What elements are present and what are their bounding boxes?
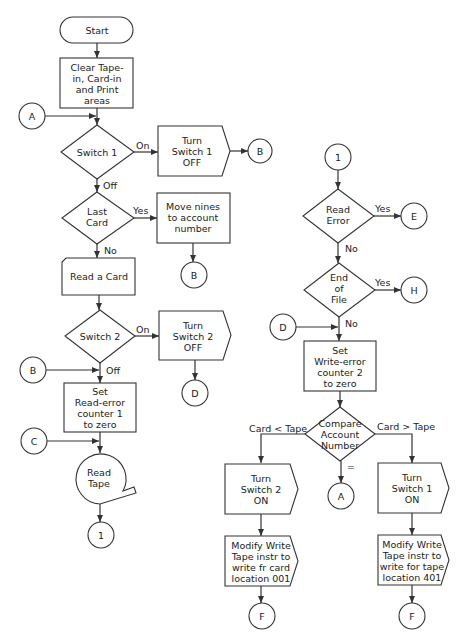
connector-f-left: F — [249, 603, 275, 629]
read-error-no-label: No — [345, 243, 358, 254]
set-read-err-line-2: Read-error — [75, 397, 125, 408]
modify-card-line-2: Tape instr to — [231, 551, 291, 562]
read-error-yes-label: Yes — [374, 203, 390, 214]
read-card-label: Read a Card — [70, 271, 128, 282]
move-nines-line-1: Move nines — [166, 201, 220, 212]
turn-sw1-off-line-1: Turn — [181, 135, 202, 146]
read-tape-io: Read Tape — [76, 454, 136, 504]
modify-card-line-1: Modify Write — [231, 540, 291, 551]
connector-f2-label: F — [409, 611, 414, 622]
connector-h-label: H — [410, 285, 417, 296]
last-card-line-2: Card — [86, 217, 108, 228]
last-card-line-1: Last — [87, 206, 107, 217]
set-read-err-line-1: Set — [92, 386, 108, 397]
read-tape-line-2: Tape — [87, 478, 110, 489]
edge-compare-gt — [375, 434, 412, 463]
turn-sw2-on-line-1: Turn — [250, 473, 271, 484]
read-error-line-1: Read — [326, 204, 350, 215]
set-write-err-line-3: counter 2 — [317, 367, 363, 378]
set-write-err-line-4: to zero — [324, 378, 357, 389]
switch1-decision: Switch 1 — [61, 125, 134, 179]
set-write-err-line-2: Write-error — [314, 356, 366, 367]
connector-d1-label: D — [191, 388, 198, 399]
read-error-decision: Read Error — [303, 189, 374, 243]
read-error-line-2: Error — [326, 215, 349, 226]
set-write-error-process: Set Write-error counter 2 to zero — [304, 341, 376, 391]
connector-f-right: F — [399, 603, 425, 629]
connector-1-in: 1 — [325, 144, 351, 170]
eof-line-1: End — [330, 272, 348, 283]
set-read-error-process: Set Read-error counter 1 to zero — [64, 383, 136, 432]
connector-c-in: C — [21, 428, 47, 454]
compare-line-2: Account — [321, 429, 360, 440]
eof-yes-label: Yes — [374, 277, 390, 288]
modify-tape-line-4: location 401 — [383, 572, 442, 583]
switch1-off-label: Off — [103, 180, 117, 191]
modify-tape-line-3: write for tape — [380, 561, 445, 572]
move-nines-process: Move nines to account number — [157, 193, 230, 243]
modify-card-line-4: location 001 — [232, 573, 291, 584]
connector-f1-label: F — [259, 611, 264, 622]
connector-a-label: A — [29, 111, 36, 122]
connector-b-out-1: B — [248, 139, 272, 163]
clear-line-1: Clear Tape- — [70, 62, 123, 73]
turn-sw1-on-line-3: ON — [405, 494, 420, 505]
move-nines-line-3: number — [174, 223, 211, 234]
connector-b2-label: B — [191, 270, 198, 281]
connector-b1-label: B — [257, 146, 264, 157]
modify-write-card-process: Modify Write Tape instr to write fr card… — [225, 536, 298, 586]
modify-write-tape-process: Modify Write Tape instr to write for tap… — [378, 535, 449, 585]
connector-d-in: D — [270, 314, 296, 340]
clear-line-4: areas — [84, 95, 110, 106]
connector-a-out-label: A — [338, 491, 345, 502]
turn-sw1-on-line-2: Switch 1 — [392, 483, 432, 494]
compare-line-3: Number — [321, 440, 359, 451]
clear-line-3: and Print — [76, 84, 119, 95]
connector-a-out: A — [328, 483, 354, 509]
move-nines-line-2: to account — [168, 212, 219, 223]
turn-sw2-off-line-3: OFF — [184, 342, 202, 353]
switch2-on-label: On — [136, 324, 150, 335]
flowchart: Start Clear Tape- in, Card-in and Print … — [0, 0, 465, 643]
switch2-label: Switch 2 — [80, 331, 120, 342]
turn-switch2-off-process: Turn Switch 2 OFF — [159, 311, 231, 360]
last-card-decision: Last Card — [62, 192, 134, 244]
turn-sw1-off-line-3: OFF — [183, 157, 201, 168]
turn-sw2-off-line-2: Switch 2 — [173, 331, 213, 342]
turn-switch2-on-process: Turn Switch 2 ON — [225, 464, 298, 514]
connector-e-label: E — [411, 211, 417, 222]
set-read-err-line-4: to zero — [84, 419, 117, 430]
connector-b-in-label: B — [30, 365, 37, 376]
turn-sw1-on-line-1: Turn — [401, 472, 422, 483]
switch1-on-label: On — [136, 140, 150, 151]
switch2-decision: Switch 2 — [65, 310, 135, 363]
last-card-no-label: No — [104, 245, 117, 256]
modify-tape-line-1: Modify Write — [382, 539, 442, 550]
switch2-off-label: Off — [106, 365, 120, 376]
compare-account-decision: Compare Account Number — [305, 407, 375, 461]
eof-line-3: File — [331, 294, 347, 305]
last-card-yes-label: Yes — [132, 205, 148, 216]
connector-b-out-2: B — [181, 262, 207, 288]
turn-sw1-off-line-2: Switch 1 — [172, 146, 212, 157]
turn-switch1-off-process: Turn Switch 1 OFF — [158, 126, 230, 176]
read-tape-line-1: Read — [87, 467, 111, 478]
connector-b-in: B — [20, 357, 46, 383]
start-label: Start — [85, 25, 108, 36]
compare-gt-label: Card > Tape — [377, 421, 435, 432]
end-of-file-decision: End of File — [304, 263, 375, 317]
modify-tape-line-2: Tape instr to — [382, 550, 442, 561]
switch1-label: Switch 1 — [77, 147, 117, 158]
edge-compare-lt — [261, 434, 305, 463]
modify-card-line-3: write fr card — [232, 562, 290, 573]
set-read-err-line-3: counter 1 — [77, 408, 123, 419]
connector-d-in-label: D — [279, 322, 286, 333]
connector-1-in-label: 1 — [335, 152, 341, 163]
turn-sw2-on-line-3: ON — [254, 495, 269, 506]
connector-1-out-label: 1 — [98, 530, 104, 541]
turn-sw2-off-line-1: Turn — [182, 320, 203, 331]
connector-d-out: D — [182, 380, 208, 406]
compare-eq-label: = — [347, 461, 355, 472]
clear-areas-process: Clear Tape- in, Card-in and Print areas — [60, 58, 133, 108]
eof-no-label: No — [345, 318, 358, 329]
